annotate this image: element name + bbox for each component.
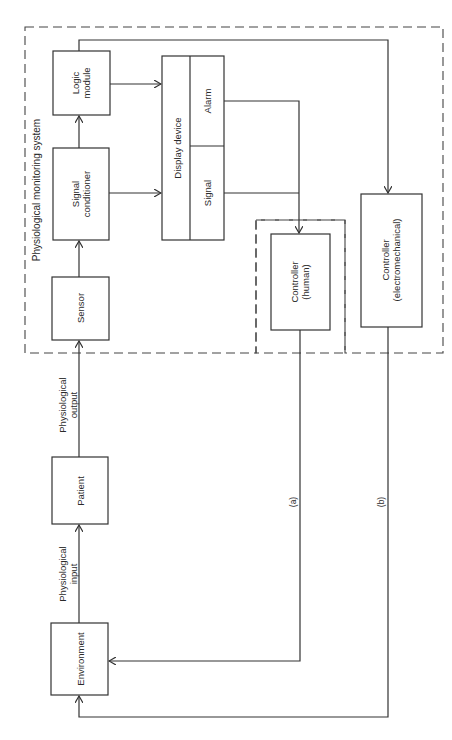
controller-electromechanical-line2: (electromechanical) — [391, 219, 402, 302]
path-a-label: (a) — [288, 497, 299, 507]
controller-electromechanical-line1: Controller — [380, 219, 391, 302]
physiological-input-label: Physiological input — [57, 546, 79, 601]
edge-path-a — [109, 330, 300, 661]
signal-conditioner-line2: conditioner — [81, 171, 92, 217]
logic-module-line2: module — [81, 67, 92, 98]
logic-module-line1: Logic — [70, 67, 81, 98]
environment-label: Environment — [75, 632, 86, 685]
physiological-input-line2: input — [68, 546, 79, 601]
logic-module-label: Logic module — [70, 67, 92, 98]
edge-logic-to-electromechanical — [79, 40, 388, 193]
controller-human-line2: (human) — [300, 261, 311, 302]
path-b-label: (b) — [376, 497, 387, 507]
physiological-output-line1: Physiological — [57, 377, 68, 432]
signal-conditioner-line1: Signal — [70, 171, 81, 217]
physiological-input-line1: Physiological — [57, 546, 68, 601]
controller-electromechanical-label: Controller (electromechanical) — [380, 219, 402, 302]
edge-path-b — [79, 327, 388, 717]
patient-label: Patient — [75, 476, 86, 506]
sensor-label: Sensor — [75, 293, 86, 323]
physiological-output-label: Physiological output — [57, 377, 79, 432]
display-device-label: Display device — [172, 117, 183, 178]
signal-conditioner-label: Signal conditioner — [70, 171, 92, 217]
edge-alarm-to-human — [224, 101, 299, 233]
signal-label: Signal — [202, 180, 213, 206]
physiological-output-line2: output — [68, 377, 79, 432]
controller-human-label: Controller (human) — [289, 261, 311, 302]
system-label: Physiological monitoring system — [31, 119, 42, 261]
block-diagram — [0, 0, 452, 740]
alarm-label: Alarm — [202, 89, 213, 114]
controller-human-line1: Controller — [289, 261, 300, 302]
